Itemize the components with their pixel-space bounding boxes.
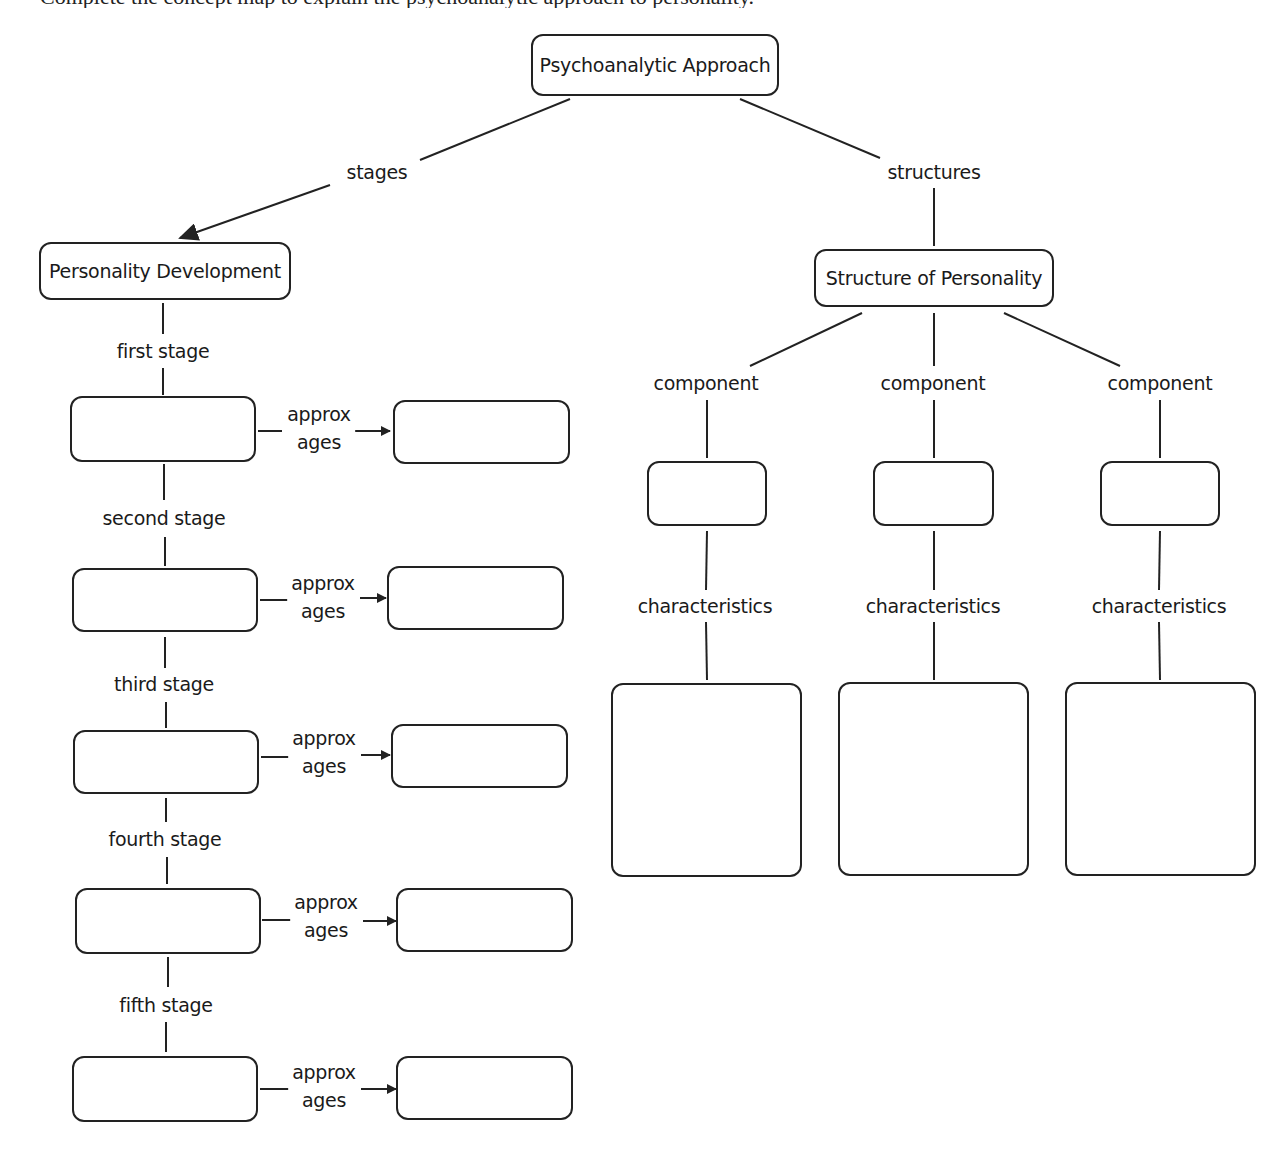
stage-blank-box-2[interactable]: [72, 568, 258, 632]
component-blank-box-2[interactable]: [873, 461, 994, 526]
component-blank-box-1[interactable]: [647, 461, 767, 526]
ages-blank-box-2[interactable]: [387, 566, 564, 630]
stages-link-label: stages: [343, 157, 412, 187]
ages-text: ages: [287, 428, 351, 456]
characteristics-blank-box-2[interactable]: [838, 682, 1029, 876]
personality-development-label: Personality Development: [49, 260, 281, 282]
approx-ages-label-3: approx ages: [288, 724, 360, 780]
characteristics-link-label-1: characteristics: [634, 591, 777, 621]
approx-ages-label-5: approx ages: [288, 1058, 360, 1114]
stage-blank-box-4[interactable]: [75, 888, 261, 954]
component-link-label-3: component: [1104, 368, 1217, 398]
ages-text: ages: [292, 1086, 356, 1114]
root-concept-node: Psychoanalytic Approach: [531, 34, 779, 96]
approx-text: approx: [294, 888, 358, 916]
root-concept-label: Psychoanalytic Approach: [540, 54, 771, 76]
stage-link-label-5: fifth stage: [115, 990, 216, 1020]
component-link-label-2: component: [877, 368, 990, 398]
stage-link-label-1: first stage: [113, 336, 214, 366]
characteristics-link-label-2: characteristics: [862, 591, 1005, 621]
characteristics-blank-box-3[interactable]: [1065, 682, 1256, 876]
characteristics-link-label-3: characteristics: [1088, 591, 1231, 621]
structures-link-label: structures: [883, 157, 984, 187]
stage-blank-box-5[interactable]: [72, 1056, 258, 1122]
approx-text: approx: [292, 724, 356, 752]
stage-link-label-4: fourth stage: [105, 824, 226, 854]
ages-text: ages: [294, 916, 358, 944]
ages-blank-box-5[interactable]: [396, 1056, 573, 1120]
approx-ages-label-1: approx ages: [283, 400, 355, 456]
characteristics-blank-box-1[interactable]: [611, 683, 802, 877]
stage-blank-box-3[interactable]: [73, 730, 259, 794]
ages-blank-box-3[interactable]: [391, 724, 568, 788]
approx-ages-label-4: approx ages: [290, 888, 362, 944]
stage-blank-box-1[interactable]: [70, 396, 256, 462]
approx-text: approx: [287, 400, 351, 428]
component-blank-box-3[interactable]: [1100, 461, 1220, 526]
structure-of-personality-node: Structure of Personality: [814, 249, 1054, 307]
component-link-label-1: component: [650, 368, 763, 398]
ages-text: ages: [292, 752, 356, 780]
ages-blank-box-4[interactable]: [396, 888, 573, 952]
ages-blank-box-1[interactable]: [393, 400, 570, 464]
personality-development-node: Personality Development: [39, 242, 291, 300]
stage-link-label-3: third stage: [110, 669, 218, 699]
approx-text: approx: [291, 569, 355, 597]
structure-of-personality-label: Structure of Personality: [826, 267, 1042, 289]
approx-text: approx: [292, 1058, 356, 1086]
ages-text: ages: [291, 597, 355, 625]
approx-ages-label-2: approx ages: [287, 569, 359, 625]
stage-link-label-2: second stage: [99, 503, 230, 533]
